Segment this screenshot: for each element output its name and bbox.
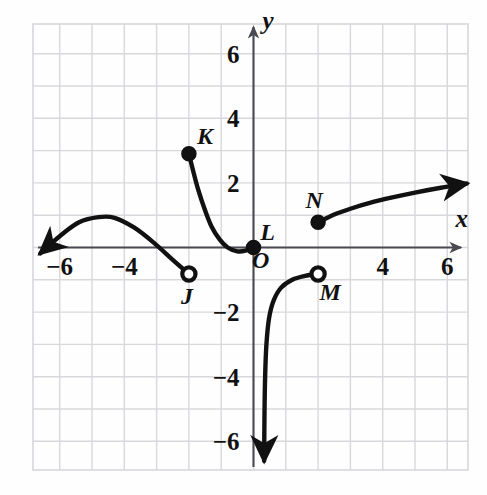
point-label-n: N bbox=[304, 187, 324, 213]
closed-endpoint-dot bbox=[182, 147, 196, 161]
function-branch bbox=[318, 184, 467, 223]
point-label-j: J bbox=[180, 283, 194, 309]
x-axis-label: x bbox=[455, 205, 469, 232]
x-tick-label: 4 bbox=[376, 253, 389, 280]
point-label-l: L bbox=[259, 219, 275, 245]
point-label-m: M bbox=[318, 279, 342, 305]
x-tick-label: −4 bbox=[111, 253, 138, 280]
open-endpoint-dot bbox=[182, 267, 195, 280]
y-tick-label: −4 bbox=[213, 364, 240, 391]
y-axis-label: y bbox=[259, 7, 274, 34]
x-tick-label: 6 bbox=[441, 253, 454, 280]
y-tick-label: 4 bbox=[227, 105, 240, 132]
graph-figure: −6−446642−2−4−6 JKLMN xyO bbox=[0, 0, 487, 495]
y-tick-label: 6 bbox=[227, 41, 240, 68]
coordinate-plane-svg: −6−446642−2−4−6 JKLMN xyO bbox=[0, 0, 487, 495]
closed-endpoint-dot bbox=[311, 215, 325, 229]
origin-label: O bbox=[252, 247, 269, 273]
x-tick-label: −6 bbox=[46, 253, 73, 280]
y-tick-label: −6 bbox=[213, 428, 240, 455]
y-tick-label: 2 bbox=[227, 170, 240, 197]
function-branch bbox=[264, 274, 318, 461]
point-label-k: K bbox=[196, 123, 215, 149]
axis-annotations: xyO bbox=[252, 7, 468, 272]
y-tick-label: −2 bbox=[213, 299, 240, 326]
